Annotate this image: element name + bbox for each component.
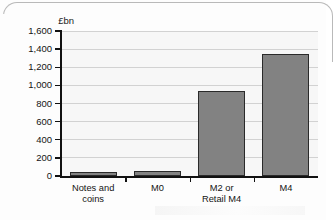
y-axis-label: 1,400: [0, 44, 52, 54]
y-axis-label: 600: [0, 117, 52, 127]
bar: [70, 172, 117, 176]
scan-artifact: [155, 206, 305, 215]
y-axis-label: 0: [0, 171, 52, 181]
y-axis-label: 800: [0, 99, 52, 109]
y-axis-label: 400: [0, 135, 52, 145]
x-axis-label: M4: [254, 183, 318, 194]
x-axis-label: M0: [125, 183, 189, 194]
x-axis-tick: [190, 177, 191, 182]
y-axis-label: 200: [0, 153, 52, 163]
y-axis-label: 1,600: [0, 26, 52, 36]
gridline: [61, 31, 318, 32]
x-axis-label: M2 or Retail M4: [190, 183, 254, 204]
bar: [134, 171, 181, 176]
gridline: [61, 49, 318, 50]
y-axis-line: [60, 30, 62, 177]
y-axis-label: 1,000: [0, 80, 52, 90]
x-axis-label: Notes and coins: [61, 183, 125, 204]
x-axis-tick: [254, 177, 255, 182]
y-axis-label: 1,200: [0, 62, 52, 72]
x-axis-tick: [125, 177, 126, 182]
bar: [198, 91, 245, 176]
bar: [262, 54, 309, 176]
